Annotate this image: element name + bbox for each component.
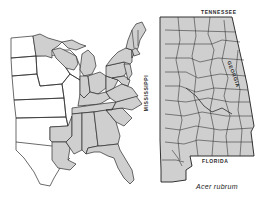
state-michigan <box>80 50 96 76</box>
state-new-york <box>106 48 132 66</box>
state-arkansas <box>50 116 72 142</box>
state-michigan-upper <box>62 40 86 50</box>
label-florida: FLORIDA <box>202 158 228 164</box>
state-ohio <box>88 72 106 94</box>
species-caption: Acer rubrum <box>196 183 238 190</box>
state-wisconsin <box>52 48 78 70</box>
state-south-dakota-outline <box>11 56 37 76</box>
state-north-dakota-outline <box>11 36 36 58</box>
state-florida <box>86 144 134 184</box>
eastern-us-map <box>0 0 269 199</box>
state-kansas-outline <box>14 98 66 118</box>
label-mississippi: MISSISSIPPI <box>143 75 149 111</box>
label-tennessee: TENNESSEE <box>201 9 237 15</box>
range-map-figure: TENNESSEE MISSISSIPPI GEORGIA FLORIDA Ac… <box>0 0 269 199</box>
